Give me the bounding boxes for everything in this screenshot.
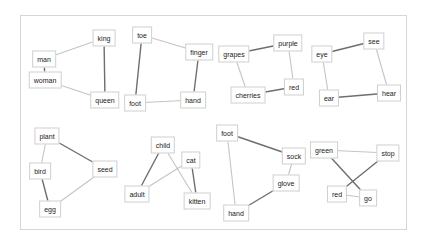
node-plant: plant: [34, 128, 59, 145]
node-go: go: [359, 190, 377, 207]
node-bird: bird: [29, 163, 51, 180]
edge-foot-hand: [227, 133, 236, 213]
node-woman: woman: [29, 72, 62, 89]
node-cat: cat: [181, 152, 200, 169]
node-eye: eye: [311, 46, 332, 63]
node-egg: egg: [39, 201, 61, 218]
node-sock: sock: [282, 148, 306, 165]
node-king: king: [93, 30, 116, 47]
node-foot: foot: [216, 125, 238, 142]
node-green: green: [310, 142, 338, 159]
node-glove: glove: [273, 175, 300, 192]
node-foot: foot: [124, 95, 146, 112]
node-man: man: [32, 51, 56, 68]
node-grapes: grapes: [218, 46, 249, 63]
node-hand: hand: [180, 92, 206, 109]
node-see: see: [363, 33, 384, 50]
node-stop: stop: [376, 145, 399, 162]
node-queen: queen: [90, 92, 119, 109]
node-ear: ear: [319, 90, 339, 107]
node-hear: hear: [377, 85, 401, 102]
node-hand: hand: [223, 205, 249, 222]
edge-toe-foot: [135, 35, 142, 103]
node-purple: purple: [273, 35, 302, 52]
node-cherries: cherries: [231, 87, 266, 104]
node-finger: finger: [185, 44, 213, 61]
node-child: child: [151, 137, 175, 154]
node-kitten: kitten: [184, 193, 211, 210]
node-red: red: [327, 186, 347, 203]
node-red: red: [284, 79, 304, 96]
node-adult: adult: [124, 186, 149, 203]
node-seed: seed: [92, 161, 117, 178]
node-toe: toe: [132, 27, 152, 44]
